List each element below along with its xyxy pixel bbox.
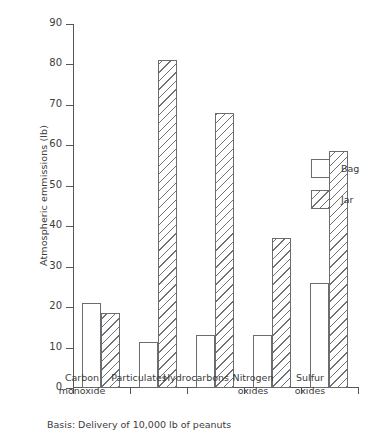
bar-chart-figure: Atmospheric emmissions (lb) 90 80 70 60 …	[0, 0, 368, 440]
x-tick-2	[187, 388, 188, 394]
y-axis-title: Atmospheric emmissions (lb)	[38, 46, 49, 346]
y-tick-30: 30	[66, 267, 73, 268]
y-tick-label-80: 80	[49, 57, 62, 68]
legend-item-bag: Bag	[311, 159, 359, 178]
y-tick-label-50: 50	[49, 179, 62, 190]
y-tick-label-90: 90	[49, 17, 62, 28]
y-tick-40: 40	[66, 226, 73, 227]
x-category-line1-sulfur-oxides: Sulfur	[265, 372, 355, 385]
y-tick-label-70: 70	[49, 98, 62, 109]
y-tick-10: 10	[66, 348, 73, 349]
y-tick-label-20: 20	[49, 300, 62, 311]
legend-label-jar: Jar	[341, 194, 354, 205]
legend-swatch-jar-icon	[311, 190, 330, 209]
y-tick-label-60: 60	[49, 138, 62, 149]
x-category-line2-carbon-monoxide: monoxide	[37, 385, 127, 398]
y-tick-label-10: 10	[49, 341, 62, 352]
y-tick-50: 50	[66, 186, 73, 187]
y-tick-20: 20	[66, 307, 73, 308]
legend-swatch-bag-icon	[311, 159, 330, 178]
y-tick-90: 90	[66, 24, 73, 25]
plot-area: 90 80 70 60 50 40 30 20 10 0	[73, 24, 359, 388]
chart-caption: Basis: Delivery of 10,000 lb of peanuts	[47, 419, 231, 430]
bar-jar-hydrocarbons	[215, 113, 234, 388]
x-tick-1	[130, 388, 131, 394]
y-tick-label-40: 40	[49, 219, 62, 230]
x-category-line2-sulfur-oxides: oxides	[265, 385, 355, 398]
legend: Bag Jar	[311, 159, 359, 221]
x-category-label-sulfur-oxides: Sulfur oxides	[265, 372, 355, 397]
x-tick-5	[358, 388, 359, 394]
legend-item-jar: Jar	[311, 190, 359, 209]
y-axis-line	[73, 24, 74, 388]
bar-jar-nitrogen-oxides	[272, 238, 291, 388]
bar-jar-particulates	[158, 60, 177, 388]
y-tick-80: 80	[66, 64, 73, 65]
y-tick-label-30: 30	[49, 260, 62, 271]
legend-label-bag: Bag	[341, 163, 359, 174]
y-tick-70: 70	[66, 105, 73, 106]
y-tick-60: 60	[66, 145, 73, 146]
